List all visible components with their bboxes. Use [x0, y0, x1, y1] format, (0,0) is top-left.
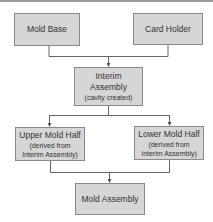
node-label: Interim — [96, 71, 122, 82]
node-label: Mold Base — [27, 24, 67, 35]
node-sublabel: (derived from — [148, 140, 189, 149]
node-label: Lower Mold Half — [138, 129, 199, 140]
node-label-line2: Assembly — [90, 82, 127, 93]
node-sublabel-line2: Interim Assembly) — [22, 150, 78, 159]
node-lower-mold-half: Lower Mold Half (derived from Interim As… — [134, 126, 204, 160]
node-label: Card Holder — [145, 24, 191, 35]
node-interim-assembly: Interim Assembly (cavity created) — [74, 67, 143, 106]
node-sublabel: (derived from — [29, 141, 70, 150]
node-label: Upper Mold Half — [19, 130, 80, 141]
node-upper-mold-half: Upper Mold Half (derived from Interim As… — [15, 127, 85, 161]
node-mold-base: Mold Base — [14, 13, 80, 46]
node-mold-assembly: Mold Assembly — [75, 183, 145, 215]
node-sublabel-line2: Interim Assembly) — [141, 149, 197, 158]
node-sublabel: (cavity created) — [85, 93, 133, 102]
node-card-holder: Card Holder — [133, 13, 203, 45]
node-label: Mold Assembly — [81, 194, 138, 205]
